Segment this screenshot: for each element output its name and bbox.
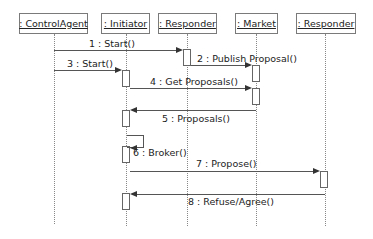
- activation-initiator: [122, 146, 130, 163]
- message-label-4: 4 : Get Proposals(): [150, 76, 238, 87]
- arrowhead-icon: [176, 47, 183, 53]
- participant-label: : Responder: [298, 18, 355, 29]
- message-label-1: 1 : Start(): [89, 38, 135, 49]
- arrowhead-icon: [130, 191, 137, 197]
- participant-label: : Initiator: [104, 18, 147, 29]
- participant-initiator: : Initiator: [101, 13, 150, 34]
- message-line-1: [54, 50, 176, 51]
- activation-market: [252, 88, 260, 105]
- message-label-5: 5 : Proposals(): [162, 113, 230, 124]
- participant-label: : Responder: [159, 18, 216, 29]
- message-line-4: [130, 88, 245, 89]
- activation-initiator: [122, 110, 130, 127]
- activation-responder-1: [183, 49, 191, 66]
- message-line-5: [137, 110, 256, 111]
- message-line-2: [191, 65, 245, 66]
- message-label-8: 8 : Refuse/Agree(): [188, 196, 274, 207]
- participant-label: : Market: [237, 18, 276, 29]
- message-label-6: 6 : Broker(): [133, 147, 187, 158]
- message-label-7: 7 : Propose(): [196, 158, 256, 169]
- activation-initiator: [122, 193, 130, 210]
- message-label-2: 2 : Publish Proposal(): [197, 53, 297, 64]
- participant-responder-2: : Responder: [296, 13, 356, 34]
- participant-responder-1: : Responder: [158, 13, 217, 34]
- arrowhead-icon: [115, 67, 122, 73]
- participant-market: : Market: [235, 13, 278, 34]
- message-line-7: [130, 171, 313, 172]
- arrowhead-icon: [130, 107, 137, 113]
- activation-initiator: [122, 70, 130, 87]
- participant-label: : ControlAgent: [19, 18, 88, 29]
- activation-market: [252, 65, 260, 82]
- participant-controlagent: : ControlAgent: [19, 13, 88, 34]
- lifeline-controlagent: [54, 34, 55, 224]
- activation-responder-2: [320, 171, 328, 188]
- message-label-3: 3 : Start(): [67, 58, 113, 69]
- message-line-3: [54, 70, 115, 71]
- arrowhead-icon: [313, 168, 320, 174]
- arrowhead-icon: [245, 85, 252, 91]
- lifeline-responder-2: [325, 34, 326, 226]
- message-line-8: [137, 194, 325, 195]
